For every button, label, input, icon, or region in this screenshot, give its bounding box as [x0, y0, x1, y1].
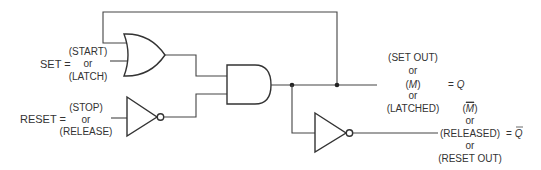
reset-alt-stop: (STOP)	[69, 102, 103, 113]
or-gate	[124, 34, 165, 76]
reset-alt-release: (RELEASE)	[60, 126, 113, 137]
not-gate-reset	[127, 97, 157, 136]
reset-or: or	[82, 114, 92, 125]
junction-dot-2	[335, 83, 340, 88]
or-output-wire	[165, 55, 228, 76]
q-or-1: or	[409, 65, 419, 76]
latch-logic-diagram: SET = (START) or (LATCH) RESET = (STOP) …	[0, 0, 541, 170]
q-alt-set-out: (SET OUT)	[388, 52, 438, 63]
q-alt-m: (M)	[405, 79, 420, 90]
set-or: or	[84, 58, 94, 69]
set-alt-latch: (LATCH)	[69, 71, 108, 82]
q-bar-or-1: or	[466, 115, 476, 126]
q-equals: = Q	[448, 79, 465, 90]
set-alt-start: (START)	[69, 46, 108, 57]
not-gate-reset-bubble	[157, 114, 163, 120]
set-label: SET =	[40, 58, 71, 70]
q-or-2: or	[409, 90, 419, 101]
reset-label: RESET =	[20, 113, 66, 125]
q-alt-latched: (LATCHED)	[387, 103, 440, 114]
q-bar-or-2: or	[466, 140, 476, 151]
not-gate-output-bubble	[346, 130, 352, 136]
not-gate-output	[315, 113, 346, 152]
not-reset-output-wire	[164, 94, 228, 117]
q-bar-equals: = Q	[506, 128, 523, 139]
branch-wire	[292, 85, 315, 133]
q-bar-alt-m-bar: (M)	[462, 103, 477, 114]
and-gate	[227, 65, 271, 104]
q-bar-alt-reset-out: (RESET OUT)	[438, 153, 502, 164]
q-bar-alt-released: (RELEASED)	[440, 128, 500, 139]
